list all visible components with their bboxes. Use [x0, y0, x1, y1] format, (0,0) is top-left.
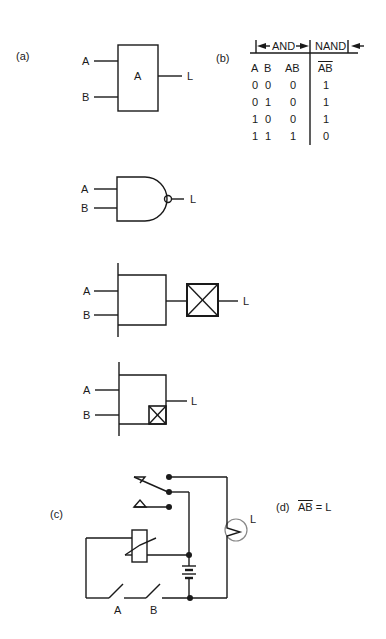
boolean-expression: AB = L [298, 501, 331, 513]
expr-equals-l: = L [313, 501, 332, 513]
relay-circuit-drawing [0, 0, 386, 639]
switch-b-label: B [150, 604, 157, 616]
lamp-label: L [250, 513, 256, 525]
expr-not-ab: AB [298, 501, 313, 513]
switch-a-label: A [114, 604, 121, 616]
